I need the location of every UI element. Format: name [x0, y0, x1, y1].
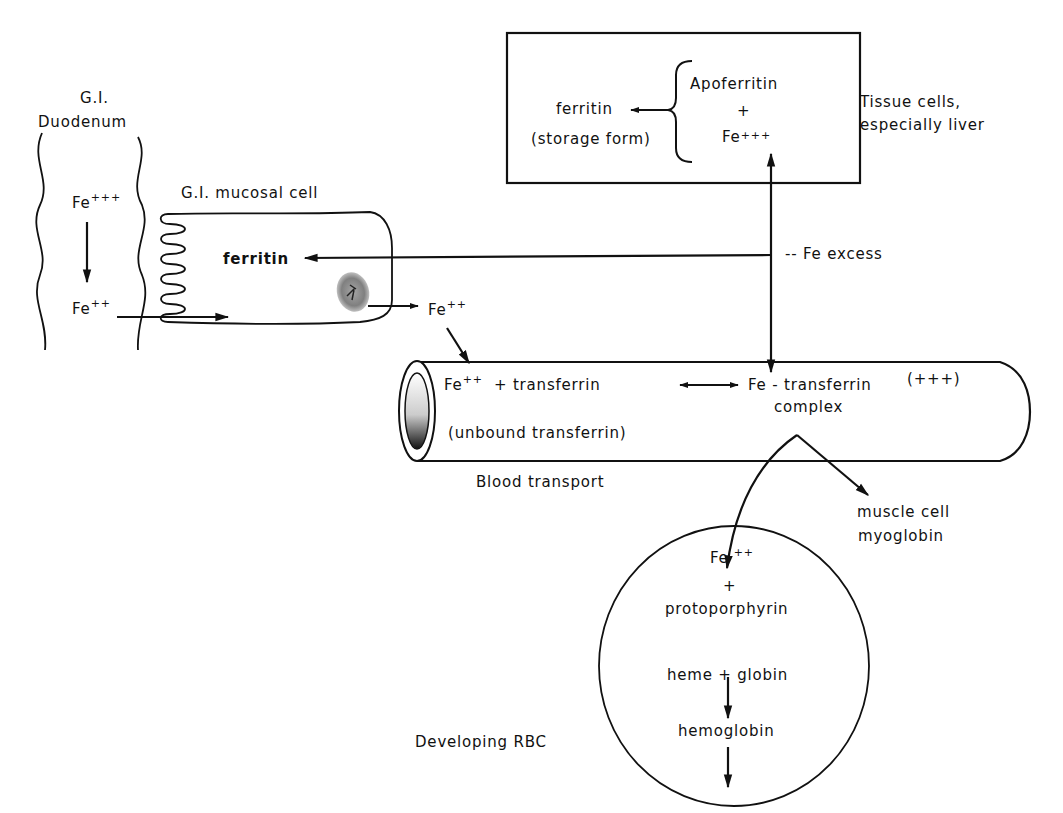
fe3-storage-label: Fe+++	[722, 130, 771, 145]
fe-excess-arrow	[305, 255, 771, 258]
complex-charge-label: (+++)	[907, 372, 960, 387]
fe-excess-label: -- Fe excess	[785, 247, 883, 262]
plus-transferrin-label: + transferrin	[494, 378, 601, 393]
duodenum-label: Duodenum	[38, 115, 127, 130]
fe2-rbc-label: Fe++	[710, 551, 754, 566]
storage-form-label: (storage form)	[531, 132, 651, 147]
mucosal-cell-label: G.I. mucosal cell	[181, 186, 318, 201]
myoglobin-label: myoglobin	[858, 529, 944, 544]
tissue-cells-label: Tissue cells,	[860, 95, 961, 110]
fe-transferrin-label: Fe - transferrin	[748, 378, 872, 393]
fe3-duodenum-label: Fe+++	[72, 196, 121, 211]
especially-liver-label: especially liver	[860, 118, 985, 133]
ferritin-label: ferritin	[556, 102, 613, 117]
apoferritin-label: Apoferritin	[690, 77, 778, 92]
unbound-transferrin-label: (unbound transferrin)	[448, 426, 626, 441]
heme-globin-label: heme + globin	[667, 668, 788, 683]
protoporphyrin-label: protoporphyrin	[665, 602, 788, 617]
complex-label: complex	[774, 400, 843, 415]
developing-rbc-label: Developing RBC	[415, 735, 547, 750]
to-muscle-arrow	[797, 435, 868, 495]
plus-sign: +	[737, 104, 750, 119]
gi-label: G.I.	[80, 91, 109, 106]
fe2-blood-label: Fe++	[444, 378, 483, 393]
blood-transport-label: Blood transport	[476, 475, 604, 490]
rbc-plus-sign: +	[723, 579, 736, 594]
mucosal-ferritin-label: ferritin	[223, 252, 289, 267]
fe2-duodenum-label: Fe++	[72, 302, 111, 317]
fe2-out-label: Fe++	[428, 303, 467, 318]
muscle-cell-label: muscle cell	[857, 505, 950, 520]
hemoglobin-label: hemoglobin	[678, 724, 775, 739]
